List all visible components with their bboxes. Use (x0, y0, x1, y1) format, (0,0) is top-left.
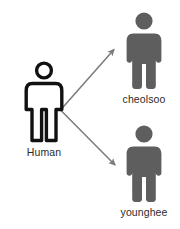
node-younghee[interactable]: younghee (108, 125, 180, 219)
node-human[interactable]: Human (8, 61, 80, 159)
node-human-label: Human (27, 146, 61, 159)
node-cheolsoo[interactable]: cheolsoo (108, 12, 180, 106)
node-younghee-label: younghee (121, 206, 168, 219)
diagram-canvas: Human cheolsoo younghee (0, 0, 180, 229)
person-solid-icon (124, 12, 164, 90)
node-cheolsoo-label: cheolsoo (123, 93, 166, 106)
person-solid-icon (124, 125, 164, 203)
person-outline-icon (24, 61, 64, 143)
